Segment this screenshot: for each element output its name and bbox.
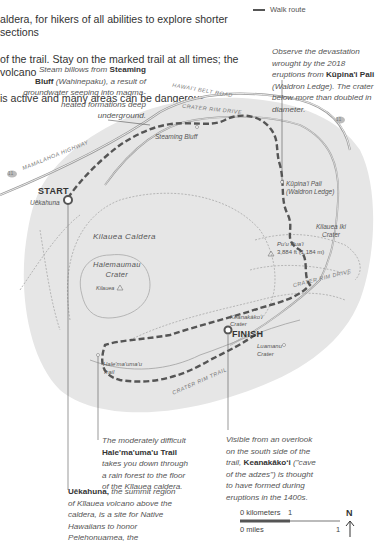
callout-keanakakoi: Visible from an overlook on the south si…	[226, 434, 318, 503]
route-shield-label: 11	[8, 171, 14, 176]
callout-kupinai-pali: Observe the devastation wrought by the 2…	[272, 46, 376, 115]
place-keanakakoi-crater: Keanakākoʻi Crater	[230, 314, 263, 328]
route-shield-label: 11	[336, 117, 342, 122]
scale-km-label: 0 kilometers	[240, 508, 280, 517]
place-kilauea-iki: Kilauea Iki Crater	[316, 223, 346, 239]
place-uekahuna: Uēkahuna	[30, 199, 60, 206]
start-label: START	[38, 186, 69, 196]
place-halemaumau-crater: Halemaumau Crater	[93, 260, 141, 280]
place-puu-puai: Pu'u Pua'i 3,884 ft (1,184 m)	[277, 240, 324, 256]
place-steaming-bluff: Steaming Bluff	[155, 133, 197, 140]
place-luamanu-crater: Luamanu Crater	[257, 342, 282, 358]
north-label: N	[346, 508, 353, 518]
scale-mi-label: 0 miles	[240, 525, 264, 534]
scale-km-value: 1	[288, 508, 292, 517]
start-marker	[64, 196, 72, 204]
callout-halemaumau-trail: The moderately difficult Hale'ma'uma'u T…	[102, 435, 194, 493]
callout-uekahuna: Uēkahuna, the summit region of Kīlauea v…	[68, 486, 184, 544]
place-kilauea-peak: Kilauea	[96, 285, 114, 291]
place-kilauea-caldera: Kilauea Caldera	[93, 232, 156, 241]
finish-label: FINISH	[232, 329, 263, 339]
callout-steaming-bluff: Steam billows from Steaming Bluff (Wahin…	[20, 64, 146, 122]
place-kupinai-pali: Kūpina'i Pali (Waldron Ledge)	[286, 180, 334, 196]
place-halemaumau-trail: Hale'ma'uma'u Trail	[103, 360, 142, 376]
scale-mi-value: 1	[336, 525, 340, 534]
